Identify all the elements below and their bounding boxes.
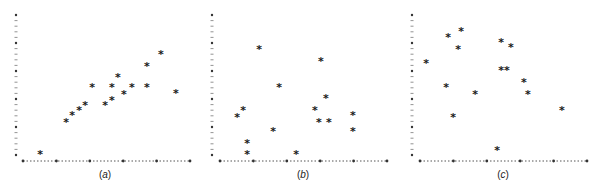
panel-caption-c: (c)	[483, 169, 523, 180]
x-major-tick	[386, 160, 389, 163]
panel-caption-b: (b)	[283, 169, 323, 180]
x-major-tick	[189, 160, 192, 163]
y-major-tick	[411, 42, 413, 44]
scatter-panel-a: **************** (a)	[0, 0, 200, 186]
y-major-tick	[411, 70, 413, 72]
data-point-asterisk: *	[458, 25, 464, 38]
scatter-plot-b: ***************	[200, 0, 400, 186]
data-point-asterisk: *	[89, 81, 95, 94]
x-major-tick	[88, 160, 91, 163]
y-major-tick	[15, 42, 17, 44]
panel-caption-a: (a)	[85, 169, 125, 180]
x-major-tick	[219, 160, 222, 163]
x-major-tick	[319, 160, 322, 163]
data-point-asterisk: *	[423, 57, 429, 70]
data-point-asterisk: *	[115, 71, 121, 84]
y-major-tick	[15, 14, 17, 16]
y-major-tick	[411, 14, 413, 16]
panel-letter-b: b	[300, 169, 306, 180]
x-major-tick	[22, 160, 25, 163]
scatter-plot-a: ****************	[0, 0, 200, 186]
scatter-plot-c: ***************	[400, 0, 601, 186]
panel-letter-a: a	[102, 169, 108, 180]
data-point-asterisk: *	[293, 148, 299, 161]
y-major-tick	[211, 14, 213, 16]
y-major-tick	[411, 154, 413, 156]
y-major-tick	[15, 70, 17, 72]
y-major-tick	[211, 126, 213, 128]
y-major-tick	[411, 98, 413, 100]
data-point-asterisk: *	[102, 99, 108, 112]
data-point-asterisk: *	[144, 81, 150, 94]
data-point-asterisk: *	[82, 99, 88, 112]
panel-letter-c: c	[501, 169, 506, 180]
data-point-asterisk: *	[158, 48, 164, 61]
data-point-asterisk: *	[472, 88, 478, 101]
data-point-asterisk: *	[443, 81, 449, 94]
y-major-tick	[15, 154, 17, 156]
data-point-asterisk: *	[350, 109, 356, 122]
data-point-asterisk: *	[270, 125, 276, 138]
data-point-asterisk: *	[323, 92, 329, 105]
x-major-tick	[252, 160, 255, 163]
scatter-panel-c: *************** (c)	[400, 0, 600, 186]
data-point-asterisk: *	[144, 60, 150, 73]
y-major-tick	[211, 70, 213, 72]
data-point-asterisk: *	[173, 87, 179, 100]
data-point-asterisk: *	[316, 116, 322, 129]
x-major-tick	[352, 160, 355, 163]
y-major-tick	[411, 126, 413, 128]
scatter-panel-b: *************** (b)	[200, 0, 400, 186]
x-major-tick	[155, 160, 158, 163]
x-major-tick	[55, 160, 58, 163]
data-point-asterisk: *	[504, 64, 510, 77]
y-major-tick	[211, 98, 213, 100]
data-point-asterisk: *	[244, 148, 250, 161]
y-major-tick	[15, 98, 17, 100]
data-point-asterisk: *	[494, 144, 500, 157]
data-point-asterisk: *	[455, 43, 461, 56]
x-major-tick	[285, 160, 288, 163]
y-major-tick	[211, 42, 213, 44]
y-major-tick	[211, 154, 213, 156]
data-point-asterisk: *	[121, 88, 127, 101]
x-major-tick	[419, 160, 422, 163]
data-point-asterisk: *	[37, 148, 43, 161]
data-point-asterisk: *	[450, 111, 456, 124]
data-point-asterisk: *	[525, 88, 531, 101]
data-point-asterisk: *	[559, 104, 565, 117]
x-major-tick	[586, 160, 589, 163]
data-point-asterisk: *	[69, 109, 75, 122]
y-major-tick	[15, 126, 17, 128]
data-point-asterisk: *	[445, 31, 451, 44]
x-major-tick	[552, 160, 555, 163]
data-point-asterisk: *	[240, 104, 246, 117]
data-point-asterisk: *	[508, 41, 514, 54]
x-major-tick	[122, 160, 125, 163]
data-point-asterisk: *	[318, 55, 324, 68]
x-major-tick	[452, 160, 455, 163]
x-major-tick	[519, 160, 522, 163]
data-point-asterisk: *	[350, 125, 356, 138]
data-point-asterisk: *	[129, 81, 135, 94]
data-point-asterisk: *	[326, 116, 332, 129]
data-point-asterisk: *	[276, 81, 282, 94]
x-major-tick	[485, 160, 488, 163]
data-point-asterisk: *	[109, 94, 115, 107]
data-point-asterisk: *	[498, 36, 504, 49]
data-point-asterisk: *	[256, 43, 262, 56]
